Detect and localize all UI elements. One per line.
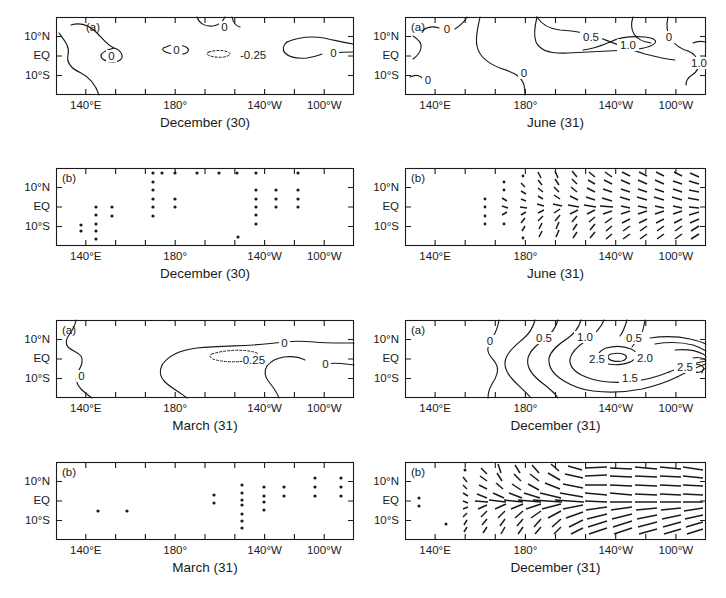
y-tick-label: 10°S [25, 220, 50, 232]
y-tick-label: 10°S [25, 69, 50, 81]
panel-p4-y-labels: 10°N EQ 10°S [373, 181, 399, 232]
contour-label: 1.5 [622, 372, 638, 384]
panel-p1-x-labels: 140°E 180° 140°W 100°W [70, 99, 342, 111]
contour-label: 0 [666, 31, 672, 43]
x-tick-label: 140°E [419, 544, 451, 556]
x-tick-label: 180° [163, 402, 187, 414]
contour-label: 0 [425, 74, 431, 86]
panel-tag: (b) [411, 172, 425, 184]
contour-label: 0 [281, 337, 287, 349]
panel-p5-axes [56, 320, 354, 398]
panel-caption-p7: March (31) [56, 560, 354, 575]
panel-p8-x-labels: 140°E 180° 140°W 100°W [419, 544, 693, 556]
panel-tag: (b) [411, 466, 425, 478]
y-tick-label: EQ [382, 200, 399, 212]
y-tick-label: EQ [33, 352, 50, 364]
contour-label: 0 [322, 358, 328, 370]
panel-p8-y-labels: 10°N EQ 10°S [373, 475, 399, 526]
panel-p6-x-labels: 140°E 180° 140°W 100°W [419, 402, 693, 414]
y-tick-label: 10°S [374, 220, 399, 232]
y-tick-label: EQ [33, 494, 50, 506]
panel-p7-axes [56, 462, 354, 540]
contour-label: 0.5 [626, 332, 642, 344]
panel-p3-axes [56, 168, 354, 246]
panel-p6-y-labels: 10°N EQ 10°S [373, 333, 399, 384]
x-tick-label: 140°W [598, 250, 633, 262]
contour-label: 0 [173, 44, 179, 56]
panel-p3-points [79, 171, 299, 240]
x-tick-label: 140°W [247, 99, 282, 111]
x-tick-label: 140°W [598, 99, 633, 111]
figure-root: 0 0 0 -0.25 0 (a) 10°N EQ 10°S 140°E 180… [0, 0, 726, 598]
x-tick-label: 180° [514, 250, 538, 262]
contour-label: 2.0 [637, 352, 653, 364]
y-tick-label: 10°N [373, 30, 399, 42]
x-tick-label: 140°E [419, 250, 451, 262]
contour-label: -0.25 [239, 354, 265, 366]
x-tick-label: 140°W [247, 402, 282, 414]
panel-p7-points [96, 476, 342, 529]
contour-label: 0.5 [536, 332, 552, 344]
contour-label: 0 [78, 370, 84, 382]
x-tick-label: 140°E [70, 250, 102, 262]
y-tick-label: 10°N [24, 181, 50, 193]
x-tick-label: 180° [163, 250, 187, 262]
x-tick-label: 180° [514, 99, 538, 111]
panel-p1-y-labels: 10°N EQ 10°S [24, 30, 50, 81]
y-tick-label: 10°S [374, 69, 399, 81]
x-tick-label: 100°W [307, 99, 342, 111]
contour-label: 0 [521, 67, 527, 79]
x-tick-label: 180° [514, 402, 538, 414]
x-tick-label: 100°W [659, 544, 694, 556]
contour-label: 0 [487, 335, 493, 347]
y-tick-label: 10°N [24, 30, 50, 42]
y-tick-label: EQ [33, 49, 50, 61]
contour-label: 2.5 [589, 353, 605, 365]
x-tick-label: 140°W [247, 544, 282, 556]
panel-p1-contours [59, 17, 353, 95]
panel-p6-labels: 0 0.5 1.0 0.5 2.5 2.0 2.5 1.5 (a) [411, 324, 696, 384]
y-tick-label: EQ [382, 494, 399, 506]
panel-tag: (a) [411, 324, 425, 336]
panel-tag: (a) [86, 21, 100, 33]
panel-p5-contours [66, 320, 354, 398]
panel-p6-axes [405, 320, 706, 398]
panel-p3: (b) 10°N EQ 10°S 140°E 180° 140°W 100°W [56, 168, 354, 246]
contour-label: 0 [444, 23, 450, 35]
contour-label: -0.25 [240, 49, 266, 61]
x-tick-label: 180° [514, 544, 538, 556]
y-tick-label: 10°S [374, 514, 399, 526]
y-tick-label: 10°N [373, 475, 399, 487]
panel-caption-p4: June (31) [405, 266, 706, 281]
contour-label: 1.0 [620, 39, 636, 51]
y-tick-label: EQ [382, 352, 399, 364]
x-tick-label: 100°W [307, 250, 342, 262]
x-tick-label: 140°E [70, 544, 102, 556]
panel-p4: (b) 10°N EQ 10°S 140°E 180° 140°W 100°W [405, 168, 706, 246]
panel-p5: 0 0 -0.25 0 (a) 10°N EQ 10°S 140°E 180° … [56, 320, 354, 398]
panel-p4-x-labels: 140°E 180° 140°W 100°W [419, 250, 693, 262]
panel-caption-p8: December (31) [405, 560, 706, 575]
x-tick-label: 100°W [659, 99, 694, 111]
x-tick-label: 140°W [247, 250, 282, 262]
panel-tag: (b) [62, 466, 76, 478]
panel-tag: (a) [411, 21, 425, 33]
x-tick-label: 140°W [598, 402, 633, 414]
panel-caption-p1: December (30) [56, 115, 354, 130]
contour-label: 0 [108, 50, 114, 62]
panel-p7-y-labels: 10°N EQ 10°S [24, 475, 50, 526]
contour-label: 1.0 [691, 57, 707, 69]
panel-p8-vectors [418, 464, 704, 534]
x-tick-label: 100°W [307, 402, 342, 414]
panel-p7-x-labels: 140°E 180° 140°W 100°W [70, 544, 342, 556]
contour-label: 1.0 [577, 331, 593, 343]
panel-p8: (b) 10°N EQ 10°S 140°E 180° 140°W 100°W [405, 462, 706, 540]
y-tick-label: 10°S [374, 372, 399, 384]
panel-p2-x-labels: 140°E 180° 140°W 100°W [419, 99, 693, 111]
panel-p5-x-labels: 140°E 180° 140°W 100°W [70, 402, 342, 414]
panel-caption-p6: December (31) [405, 418, 706, 433]
panel-p6: 0 0.5 1.0 0.5 2.5 2.0 2.5 1.5 (a) 10°N E… [405, 320, 706, 398]
y-tick-label: EQ [382, 49, 399, 61]
panel-p5-y-labels: 10°N EQ 10°S [24, 333, 50, 384]
contour-label: 0 [330, 47, 336, 59]
